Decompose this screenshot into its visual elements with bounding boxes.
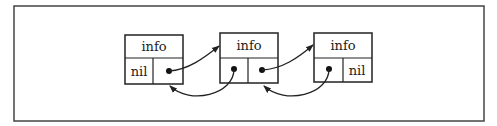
node-1-info-label: info	[141, 39, 166, 54]
node-3-info-label: info	[330, 38, 355, 53]
list-node-1: info nil	[125, 35, 183, 84]
list-node-2: info	[220, 33, 278, 83]
node-1-prev-nil-label: nil	[131, 64, 148, 79]
node-3-next-nil-label: nil	[349, 63, 366, 78]
list-node-3: info nil	[314, 33, 372, 82]
node-2-info-label: info	[236, 38, 261, 53]
linked-list-diagram: info nil info info nil	[0, 0, 497, 126]
